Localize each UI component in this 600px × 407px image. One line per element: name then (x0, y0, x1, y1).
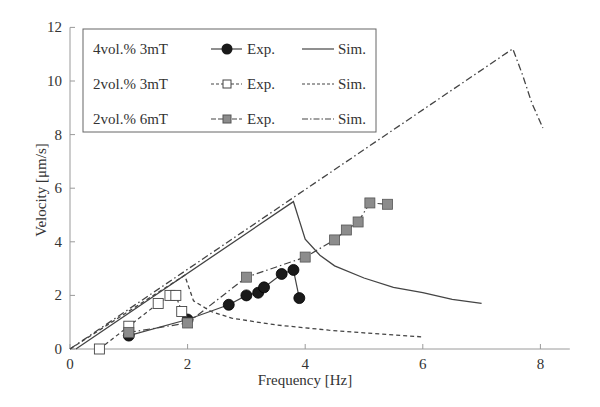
legend-exp-label: Exp. (247, 111, 275, 127)
data-point-gray-square (330, 235, 340, 245)
y-tick-label: 0 (55, 341, 63, 357)
data-point-gray-square (383, 199, 393, 209)
data-point-gray-square (365, 198, 375, 208)
data-point-circle (288, 264, 299, 275)
y-tick-label: 2 (55, 287, 63, 303)
legend-marker-circle (222, 44, 233, 55)
data-point-open-square (94, 344, 104, 354)
x-tick-label: 8 (537, 356, 545, 372)
data-point-gray-square (241, 272, 251, 282)
data-point-circle (223, 299, 234, 310)
legend-marker-open-square (223, 80, 231, 88)
data-point-gray-square (300, 252, 310, 262)
data-point-open-square (171, 290, 181, 300)
legend-sim-label: Sim. (338, 41, 366, 57)
legend-group-label: 2vol.% 6mT (93, 111, 168, 127)
legend-group-label: 4vol.% 3mT (93, 41, 168, 57)
legend-exp-label: Exp. (247, 76, 275, 92)
data-point-gray-square (124, 327, 134, 337)
data-point-gray-square (353, 217, 363, 227)
data-point-gray-square (341, 225, 351, 235)
legend-group-label: 2vol.% 3mT (93, 76, 168, 92)
x-tick-label: 0 (66, 356, 74, 372)
data-point-open-square (177, 306, 187, 316)
data-point-circle (276, 268, 287, 279)
data-point-circle (241, 290, 252, 301)
legend-marker-gray-square (223, 115, 231, 123)
y-tick-label: 6 (55, 180, 63, 196)
y-tick-label: 4 (55, 234, 63, 250)
y-tick-label: 8 (55, 127, 63, 143)
y-tick-label: 10 (47, 73, 62, 89)
exp-line-2vol (129, 203, 388, 333)
legend-sim-label: Sim. (338, 76, 366, 92)
x-tick-label: 6 (419, 356, 427, 372)
x-tick-label: 2 (184, 356, 192, 372)
data-point-circle (294, 293, 305, 304)
x-axis-title: Frequency [Hz] (258, 372, 353, 388)
data-point-open-square (153, 298, 163, 308)
y-tick-label: 12 (47, 19, 62, 35)
data-point-gray-square (183, 318, 193, 328)
legend-sim-label: Sim. (338, 111, 366, 127)
x-tick-label: 4 (301, 356, 309, 372)
sim-line-2vol (70, 275, 423, 349)
legend: 4vol.% 3mTExp.Sim.2vol.% 3mTExp.Sim.2vol… (83, 29, 376, 132)
legend-exp-label: Exp. (247, 41, 275, 57)
y-axis-title: Velocity [μm/s] (33, 143, 49, 236)
data-point-circle (259, 282, 270, 293)
chart: 02468024681012 4vol.% 3mTExp.Sim.2vol.% … (0, 0, 600, 407)
